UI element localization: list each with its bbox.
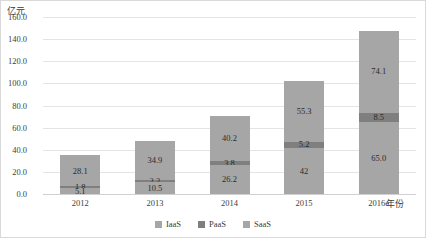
x-tick-label-2013: 2013 <box>115 198 195 208</box>
bar-value-label: 10.5 <box>147 184 162 193</box>
bar-segment-saas[interactable]: 55.3 <box>284 81 324 142</box>
bar-segment-iaas[interactable]: 5.1 <box>60 188 100 194</box>
legend-item-iaas[interactable]: IaaS <box>155 220 181 229</box>
bar-column-2016e[interactable]: 74.18.565.0 <box>359 31 399 194</box>
bar-column-2012[interactable]: 28.11.85.1 <box>60 155 100 194</box>
legend-item-saas[interactable]: SaaS <box>243 220 271 229</box>
y-tick-label: 160.0 <box>0 12 27 22</box>
x-tick-label-2016e: 2016e <box>339 198 419 208</box>
legend-label: SaaS <box>254 220 271 229</box>
y-tick-label: 140.0 <box>0 34 27 44</box>
x-tick-label-2012: 2012 <box>40 198 120 208</box>
bar-value-label: 34.9 <box>147 156 162 165</box>
bar-segment-iaas[interactable]: 26.2 <box>210 165 250 194</box>
legend-swatch-icon <box>243 221 250 228</box>
chart-legend: IaaSPaaSSaaS <box>1 220 425 229</box>
legend-swatch-icon <box>155 221 162 228</box>
plot-area: 0.020.040.060.080.0100.0120.0140.0160.0 … <box>43 17 416 194</box>
bar-column-2013[interactable]: 34.92.210.5 <box>135 141 175 194</box>
y-tick-label: 100.0 <box>0 78 27 88</box>
bar-value-label: 74.1 <box>371 67 386 76</box>
y-tick-label: 20.0 <box>0 167 27 177</box>
legend-item-paas[interactable]: PaaS <box>198 220 226 229</box>
y-tick-label: 40.0 <box>0 145 27 155</box>
bar-value-label: 55.3 <box>297 107 312 116</box>
bar-value-label: 65.0 <box>371 154 386 163</box>
bar-segment-iaas[interactable]: 42 <box>284 148 324 194</box>
x-tick-label-2015: 2015 <box>264 198 344 208</box>
bar-value-label: 28.1 <box>73 167 88 176</box>
bar-segment-saas[interactable]: 74.1 <box>359 31 399 113</box>
legend-swatch-icon <box>198 221 205 228</box>
bar-column-2014[interactable]: 40.23.826.2 <box>210 116 250 194</box>
stacked-bar-chart: 亿元 年份 0.020.040.060.080.0100.0120.0140.0… <box>0 0 426 238</box>
bar-value-label: 8.5 <box>373 113 384 122</box>
legend-label: IaaS <box>166 220 181 229</box>
y-tick-label: 120.0 <box>0 56 27 66</box>
y-tick-label: 80.0 <box>0 101 27 111</box>
y-tick-label: 0.0 <box>0 189 27 199</box>
bar-segment-saas[interactable]: 40.2 <box>210 116 250 160</box>
bar-value-label: 40.2 <box>222 134 237 143</box>
gridline <box>43 194 416 195</box>
bar-value-label: 5.1 <box>75 187 86 196</box>
bar-segment-iaas[interactable]: 65.0 <box>359 122 399 194</box>
legend-label: PaaS <box>209 220 226 229</box>
bar-value-label: 26.2 <box>222 175 237 184</box>
bar-segment-saas[interactable]: 34.9 <box>135 141 175 180</box>
gridline <box>43 17 416 18</box>
x-tick-label-2014: 2014 <box>190 198 270 208</box>
bar-column-2015[interactable]: 55.35.242 <box>284 81 324 194</box>
bar-segment-iaas[interactable]: 10.5 <box>135 182 175 194</box>
bar-value-label: 42 <box>300 167 309 176</box>
bar-segment-paas[interactable]: 8.5 <box>359 113 399 122</box>
y-tick-label: 60.0 <box>0 123 27 133</box>
